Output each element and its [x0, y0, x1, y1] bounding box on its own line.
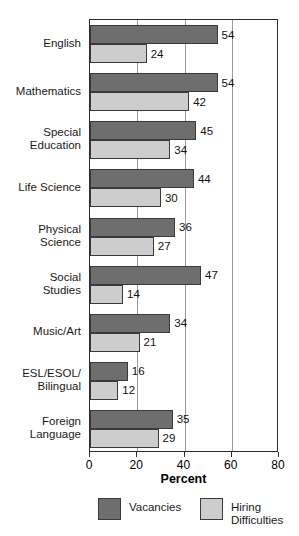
bar [90, 362, 128, 381]
category-label: ESL/ESOL/ Bilingual [0, 367, 81, 393]
bar-value-label: 44 [198, 173, 211, 185]
bar [90, 237, 154, 256]
x-axis-tick [89, 452, 90, 457]
bar [90, 314, 170, 333]
bar-value-label: 30 [165, 192, 178, 204]
category-label: Mathematics [0, 85, 81, 98]
x-axis-tick-label: 40 [177, 458, 190, 472]
bar-value-label: 29 [163, 432, 176, 444]
category-label: Social Studies [0, 271, 81, 297]
category-label: Foreign Language [0, 415, 81, 441]
x-axis-tick-label: 60 [224, 458, 237, 472]
bar-value-label: 42 [193, 96, 206, 108]
bar [90, 121, 196, 140]
x-axis-tick [136, 452, 137, 457]
bar-value-label: 35 [177, 413, 190, 425]
legend-swatch [200, 498, 223, 520]
bars-layer: 542454424534443036274714342116123529 [90, 20, 277, 451]
bar-value-label: 45 [200, 125, 213, 137]
bar [90, 140, 170, 159]
bar [90, 381, 118, 400]
bar-chart: EnglishMathematicsSpecial EducationLife … [0, 0, 299, 536]
bar-value-label: 54 [222, 77, 235, 89]
x-axis-tick [231, 452, 232, 457]
x-axis-tick-label: 20 [130, 458, 143, 472]
bar-value-label: 12 [122, 384, 135, 396]
bar-value-label: 14 [127, 288, 140, 300]
bar [90, 44, 147, 63]
bar-value-label: 21 [144, 336, 157, 348]
bar [90, 25, 218, 44]
bar [90, 429, 159, 448]
legend-label: Hiring Difficulties [231, 498, 283, 527]
bar-value-label: 34 [174, 144, 187, 156]
chart-legend: VacanciesHiring Difficulties [0, 496, 299, 536]
x-axis-tick [184, 452, 185, 457]
category-label: English [0, 37, 81, 50]
category-label: Physical Science [0, 223, 81, 249]
x-axis-tick-label: 0 [86, 458, 93, 472]
x-axis-title: Percent [89, 472, 278, 486]
bar-value-label: 47 [205, 269, 218, 281]
bar [90, 410, 173, 429]
x-axis-tick [278, 452, 279, 457]
bar-value-label: 24 [151, 48, 164, 60]
bar [90, 188, 161, 207]
bar [90, 73, 218, 92]
legend-entry: Vacancies [98, 498, 181, 520]
plot-area: 542454424534443036274714342116123529 [89, 19, 278, 452]
legend-label: Vacancies [129, 498, 181, 514]
legend-entry: Hiring Difficulties [200, 498, 283, 527]
x-axis-tick-label: 80 [271, 458, 284, 472]
bar-value-label: 27 [158, 240, 171, 252]
bar-value-label: 34 [174, 317, 187, 329]
legend-swatch [98, 498, 121, 520]
category-axis-labels: EnglishMathematicsSpecial EducationLife … [0, 19, 85, 452]
bar [90, 92, 189, 111]
bar [90, 218, 175, 237]
bar [90, 285, 123, 304]
category-label: Special Education [0, 126, 81, 152]
category-label: Music/Art [0, 325, 81, 338]
bar-value-label: 54 [222, 29, 235, 41]
bar [90, 169, 194, 188]
category-label: Life Science [0, 181, 81, 194]
bar [90, 266, 201, 285]
bar [90, 333, 140, 352]
bar-value-label: 16 [132, 365, 145, 377]
bar-value-label: 36 [179, 221, 192, 233]
